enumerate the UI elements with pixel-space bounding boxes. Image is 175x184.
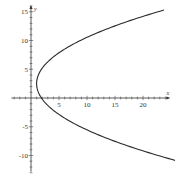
y-axis-label: y (33, 6, 37, 12)
axes (11, 5, 170, 172)
x-axis-label: x (165, 90, 169, 96)
y-tick-label: 15 (21, 8, 29, 16)
parabola-curve (37, 10, 175, 161)
x-tick-label: 20 (140, 101, 148, 109)
y-tick-label: -10 (19, 152, 29, 160)
x-axis-arrow-icon (166, 96, 170, 99)
y-axis-arrow-icon (29, 5, 32, 9)
y-tick-label: 10 (21, 37, 29, 45)
parabola-chart: 510152015105-5-10 x y (0, 0, 175, 184)
y-tick-label: 5 (25, 66, 29, 74)
x-tick-label: 15 (112, 101, 120, 109)
y-tick-label: -5 (22, 123, 28, 131)
tick-labels: 510152015105-5-10 (19, 8, 147, 160)
x-tick-label: 5 (57, 101, 61, 109)
x-tick-label: 10 (84, 101, 92, 109)
